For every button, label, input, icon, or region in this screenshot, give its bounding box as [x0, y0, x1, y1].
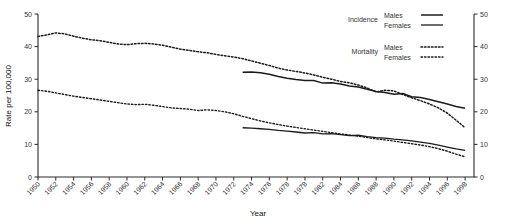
- x-tick-label: 1976: [257, 180, 273, 196]
- legend-entry-label: Males: [384, 12, 403, 19]
- x-tick-label: 1968: [185, 180, 201, 196]
- x-tick-label: 1998: [452, 180, 468, 196]
- x-tick-label: 1994: [417, 180, 433, 196]
- y-tick-label-left: 0: [28, 174, 32, 181]
- x-tick-label: 1978: [292, 180, 308, 196]
- series-mortality-females: [38, 90, 465, 157]
- x-tick-label: 1988: [363, 180, 379, 196]
- x-tick-label: 1974: [239, 180, 255, 196]
- y-tick-label-left: 20: [24, 108, 32, 115]
- x-tick-label: 1970: [203, 180, 219, 196]
- x-axis-title: Year: [250, 209, 267, 218]
- series-group: [38, 33, 465, 157]
- legend-group-label: Mortality: [352, 48, 379, 56]
- x-tick-label: 1958: [96, 180, 112, 196]
- y-tick-label-right: 0: [480, 174, 484, 181]
- x-tick-label: 1962: [132, 180, 148, 196]
- x-tick-label: 1986: [346, 180, 362, 196]
- x-tick-label: 1992: [399, 180, 415, 196]
- y-axis-title: Rate per 100,000: [4, 65, 13, 127]
- x-tick-label: 1982: [310, 180, 326, 196]
- incidence-mortality-chart: 0010102020303040405050195019521954195619…: [0, 0, 525, 224]
- chart-legend: IncidenceMalesFemalesMortalityMalesFemal…: [348, 12, 443, 61]
- chart-plot-area: 0010102020303040405050195019521954195619…: [0, 0, 525, 224]
- x-tick-label: 1950: [25, 180, 41, 196]
- y-tick-label-right: 40: [480, 43, 488, 50]
- x-tick-label: 1956: [79, 180, 95, 196]
- x-tick-label: 1964: [150, 180, 166, 196]
- y-tick-label-left: 10: [24, 141, 32, 148]
- y-tick-label-left: 50: [24, 11, 32, 18]
- legend-group-label: Incidence: [348, 16, 378, 23]
- x-tick-label: 1990: [381, 180, 397, 196]
- y-tick-label-left: 30: [24, 76, 32, 83]
- y-tick-label-right: 10: [480, 141, 488, 148]
- x-tick-label: 1996: [435, 180, 451, 196]
- legend-entry-label: Females: [384, 22, 411, 29]
- x-tick-label: 1954: [61, 180, 77, 196]
- y-tick-label-right: 30: [480, 76, 488, 83]
- x-tick-label: 1960: [114, 180, 130, 196]
- x-tick-label: 1978: [274, 180, 290, 196]
- legend-entry-label: Males: [384, 44, 403, 51]
- tick-labels-group: 0010102020303040405050195019521954195619…: [24, 11, 488, 197]
- y-tick-label-right: 50: [480, 11, 488, 18]
- x-tick-label: 1966: [168, 180, 184, 196]
- series-incidence-males: [243, 72, 465, 108]
- x-tick-label: 1972: [221, 180, 237, 196]
- legend-entry-label: Females: [384, 54, 411, 61]
- x-tick-label: 1984: [328, 180, 344, 196]
- y-tick-label-right: 20: [480, 108, 488, 115]
- y-tick-label-left: 40: [24, 43, 32, 50]
- x-tick-label: 1952: [43, 180, 59, 196]
